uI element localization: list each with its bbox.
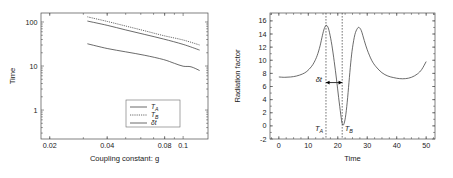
y-axis-title: Radiation factor (233, 49, 242, 103)
arrow-head-left (326, 81, 330, 85)
x-tick-label: 50 (422, 141, 430, 150)
x-tick-label: 0.02 (43, 141, 57, 150)
curve-radiation_factor (279, 25, 426, 125)
x-tick-label: 10 (304, 141, 312, 150)
arrow-head-right (339, 81, 343, 85)
x-axis-title: Time (344, 154, 361, 163)
plot-frame (41, 13, 208, 139)
y-tick-label: 8 (263, 69, 267, 78)
x-tick-label: 0.08 (158, 141, 172, 150)
figure-container: 0.020.040.080.1 110100 Coupling constant… (0, 0, 453, 178)
curve-delta_t (87, 44, 199, 71)
x-axis-tick-labels: 01020304050 (277, 141, 430, 150)
y-axis-title: Time (8, 68, 17, 85)
y-axis-ticks (41, 22, 208, 133)
y-tick-label: -2 (260, 135, 266, 144)
panel-coupling-constant: 0.020.040.080.1 110100 Coupling constant… (0, 0, 227, 178)
y-tick-label: 12 (259, 43, 267, 52)
x-axis-tick-labels: 0.020.040.080.1 (43, 141, 188, 150)
x-tick-label: 0.04 (100, 141, 114, 150)
data-curves (87, 17, 199, 71)
left-panel-svg: 0.020.040.080.1 110100 Coupling constant… (0, 0, 227, 178)
y-tick-label: 10 (259, 56, 267, 65)
panel-radiation-factor: 01020304050 -20246810121416 TATBδt Time … (227, 0, 453, 178)
data-curves (279, 25, 426, 125)
legend: TATBδt (126, 100, 180, 127)
y-tick-label: 14 (259, 30, 267, 39)
x-tick-label: 0 (277, 141, 281, 150)
right-panel-svg: 01020304050 -20246810121416 TATBδt Time … (227, 0, 453, 178)
y-tick-label: 100 (26, 18, 38, 27)
x-tick-label: 30 (363, 141, 371, 150)
x-tick-label: 0.1 (178, 141, 188, 150)
y-tick-label: 6 (263, 82, 267, 91)
x-tick-label: 40 (393, 141, 401, 150)
y-tick-label: 16 (259, 16, 267, 25)
y-axis-tick-labels: -20246810121416 (259, 16, 267, 143)
y-axis-tick-labels: 110100 (26, 18, 38, 115)
x-axis-title: Coupling constant: g (90, 154, 159, 163)
x-tick-label: 20 (334, 141, 342, 150)
plot-annotations: TATBδt (315, 13, 353, 139)
label-delta-t: δt (316, 75, 323, 84)
label-t-b-guide: TB (345, 124, 354, 134)
y-tick-label: 10 (30, 62, 38, 71)
y-tick-label: 2 (263, 108, 267, 117)
curve-T_A (87, 21, 199, 50)
y-tick-label: 0 (263, 121, 267, 130)
plot-frame (270, 13, 435, 139)
curve-T_B (87, 17, 199, 45)
label-t-a-guide: TA (315, 124, 324, 134)
y-tick-label: 1 (34, 106, 38, 115)
y-tick-label: 4 (263, 95, 267, 104)
